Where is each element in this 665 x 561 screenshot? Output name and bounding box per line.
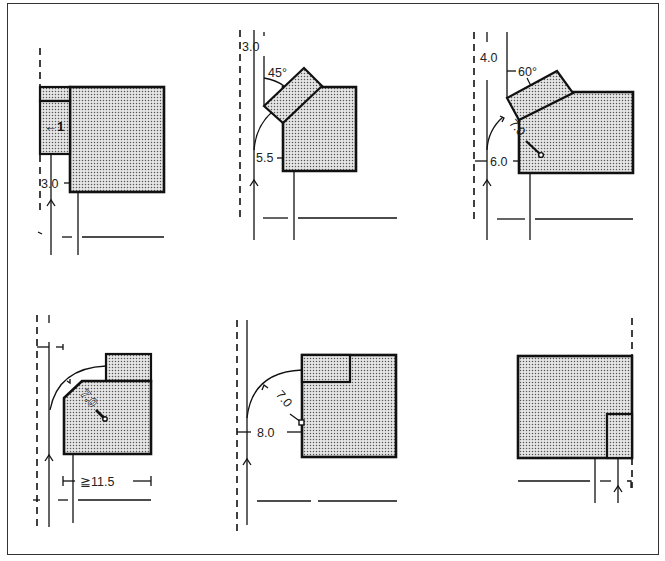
angle-label: 45° bbox=[268, 66, 287, 80]
radius-arrow-icon bbox=[262, 385, 268, 390]
dim-label: 5.5 bbox=[256, 151, 273, 165]
pivot-point bbox=[539, 153, 544, 158]
turning-arc bbox=[247, 370, 302, 418]
corner-mark bbox=[38, 232, 42, 234]
radius-label: 7.0 bbox=[273, 388, 295, 410]
corner-mark bbox=[627, 481, 631, 488]
angle-label: 60° bbox=[518, 65, 537, 79]
panel-4: 7.0 ≧11.5 bbox=[33, 315, 151, 528]
radius-arrow-icon bbox=[67, 379, 70, 383]
turning-arc bbox=[254, 112, 272, 150]
upper-annex bbox=[106, 354, 151, 381]
dim-label: 3.0 bbox=[41, 177, 58, 191]
panel-2: 3.0 45° 5.5 bbox=[240, 30, 397, 240]
pivot-point bbox=[299, 420, 304, 425]
corner-annex bbox=[302, 355, 350, 382]
turning-arc bbox=[487, 117, 503, 150]
marker-label: ←1 bbox=[44, 119, 64, 134]
annex-strip bbox=[40, 87, 70, 101]
panel-3: 4.0 60° 7.0 6.0 bbox=[474, 32, 633, 240]
dim-label: 6.0 bbox=[490, 155, 507, 169]
offset-label: 3.0 bbox=[242, 40, 259, 54]
panel-5: 7.0 8.0 bbox=[237, 320, 397, 532]
pivot-point bbox=[103, 417, 107, 421]
dim-label: 8.0 bbox=[257, 426, 274, 440]
panel-1: ←1 3.0 bbox=[38, 48, 164, 255]
main-building bbox=[64, 381, 151, 454]
corner-annex bbox=[607, 414, 632, 458]
offset-label: 4.0 bbox=[480, 51, 497, 65]
parking-layout-diagram: ←1 3.0 3.0 45° 5.5 4.0 60° bbox=[0, 0, 665, 561]
main-building bbox=[70, 87, 164, 192]
width-label: ≧11.5 bbox=[80, 475, 114, 489]
panel-6 bbox=[518, 318, 632, 503]
